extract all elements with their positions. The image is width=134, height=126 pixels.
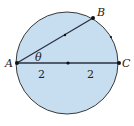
chord-midpoint	[64, 34, 66, 36]
arc-point	[110, 36, 112, 38]
center-point	[66, 61, 69, 64]
segment-label-left: 2	[38, 68, 45, 81]
angle-theta: θ	[35, 51, 42, 64]
segment-label-right: 2	[87, 68, 94, 81]
circle-diagram: A B C θ 2 2	[0, 0, 134, 126]
point-b	[91, 16, 95, 20]
label-a: A	[4, 57, 13, 70]
label-c: C	[122, 57, 131, 70]
label-b: B	[96, 6, 105, 19]
point-a	[15, 61, 19, 65]
point-c	[117, 61, 121, 65]
